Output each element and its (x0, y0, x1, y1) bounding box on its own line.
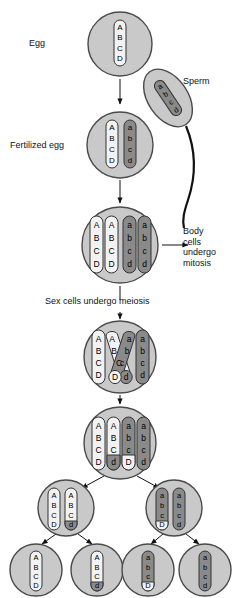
cross-4-b: b (140, 346, 145, 356)
egg-cell: A B C D (88, 12, 152, 76)
label-egg: Egg (29, 38, 45, 49)
g4-d: d (203, 581, 207, 590)
zygote-gene-C: C (109, 145, 115, 154)
cross-3-D: D (112, 372, 118, 382)
dup-2-C: C (108, 246, 114, 256)
cross-3-a: a (127, 334, 132, 344)
rec-3-a: a (126, 421, 131, 431)
dup-3-b: b (127, 233, 132, 243)
gamete-4: a b c d (179, 544, 231, 596)
rec-2-C: C (110, 445, 116, 455)
body-line-2: cells (183, 237, 201, 247)
body-line-3: undergo (183, 247, 216, 257)
arrow-split-ll (42, 534, 56, 544)
crossing-over-cell: A B C D A B C d a b c D a b c d (84, 321, 156, 393)
rec-4-b: b (141, 433, 146, 443)
label-body-cells-mitosis: Bodycellsundergomitosis (183, 226, 216, 268)
cross-4-a: a (140, 334, 145, 344)
dr-2-d: d (177, 520, 181, 529)
cross-2-d: d (124, 372, 129, 382)
cross-4-d: d (140, 370, 145, 380)
dup-1-A: A (94, 220, 100, 230)
dr-1-c: c (160, 511, 164, 520)
dup-2-B: B (109, 233, 115, 243)
dl-2-A: A (68, 491, 73, 500)
rec-2-d: d (111, 457, 116, 467)
dup-1-C: C (93, 246, 99, 256)
dl-1-A: A (51, 491, 56, 500)
zygote-gene-B: B (109, 134, 114, 143)
zygote-gene-A: A (109, 123, 115, 132)
g1-C: C (33, 572, 39, 581)
rec-4-a: a (141, 421, 146, 431)
dup-2-A: A (109, 220, 115, 230)
dr-2-c: c (177, 511, 181, 520)
dup-1-B: B (94, 233, 100, 243)
rec-3-b: b (126, 433, 131, 443)
cross-2-A: A (109, 334, 115, 344)
dl-2-B: B (68, 501, 73, 510)
dl-1-D: D (51, 520, 57, 529)
fertilized-egg-cell: A B C D a b c d (87, 112, 153, 178)
dup-4-b: b (142, 233, 147, 243)
dup-3-a: a (127, 220, 132, 230)
meiosis-diagram: a b c d A B C D A B C D a b c (0, 0, 237, 598)
zygote-gene-a: a (128, 123, 133, 132)
rec-2-B: B (111, 433, 117, 443)
dl-1-B: B (51, 501, 56, 510)
dl-1-C: C (51, 511, 57, 520)
recombined-cell: A B C D A B C d a b c D a b c d (84, 407, 156, 479)
dup-1-D: D (93, 259, 99, 269)
zygote-membrane (87, 112, 153, 178)
dl-2-C: C (68, 511, 74, 520)
rec-3-D: D (125, 457, 131, 467)
g2-C: C (94, 572, 100, 581)
body-line-1: Body (183, 226, 204, 236)
dr-1-b: b (160, 501, 164, 510)
rec-1-A: A (96, 421, 102, 431)
zygote-gene-b: b (128, 134, 133, 143)
zygote-gene-d: d (128, 156, 132, 165)
arrow-split-rl (151, 534, 163, 544)
rec-1-D: D (95, 457, 101, 467)
zygote-gene-D: D (109, 156, 115, 165)
g2-B: B (94, 563, 99, 572)
egg-gene-A: A (117, 23, 123, 32)
duplicated-cell: A B C D A B C D a b c d a b c d (82, 207, 158, 283)
g3-c: c (146, 572, 150, 581)
dr-2-b: b (177, 501, 181, 510)
body-line-4: mitosis (183, 258, 211, 268)
g3-b: b (146, 563, 150, 572)
rec-2-A: A (111, 421, 117, 431)
dr-1-D: D (159, 520, 165, 529)
arrow-split-rr (186, 534, 199, 544)
rec-1-C: C (95, 445, 101, 455)
g2-d: d (95, 581, 99, 590)
egg-gene-C: C (117, 44, 123, 53)
cross-1-B: B (96, 346, 102, 356)
g3-D: D (145, 581, 151, 590)
label-sperm: Sperm (183, 76, 210, 87)
g1-A: A (33, 553, 38, 562)
g2-A: A (94, 553, 99, 562)
g4-b: b (203, 563, 207, 572)
gamete-1: A B C D (10, 544, 62, 596)
label-sex-cells-meiosis: Sex cells undergo meiosis (45, 296, 150, 307)
dup-4-d: d (142, 259, 147, 269)
dl-2-d: d (69, 520, 73, 529)
rec-1-B: B (96, 433, 102, 443)
gamete-2: A B C d (71, 544, 123, 596)
cross-2-B: B (111, 346, 117, 356)
dup-2-D: D (108, 259, 114, 269)
daughter-cell-right: a b c D a b c d (146, 480, 202, 536)
sperm-tail (183, 126, 194, 228)
arrow-split-lr (78, 534, 92, 544)
daughter-cell-left: A B C D A B C d (38, 480, 94, 536)
egg-gene-B: B (117, 33, 122, 42)
arrow-split-left (82, 476, 104, 488)
dup-3-d: d (127, 259, 132, 269)
cross-3-b: b (125, 346, 130, 356)
rec-4-d: d (141, 457, 146, 467)
zygote-gene-c: c (128, 145, 132, 154)
dup-4-a: a (142, 220, 147, 230)
